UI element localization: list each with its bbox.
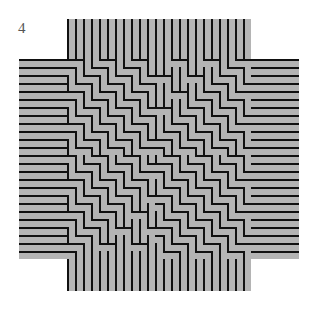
weave-cells	[19, 19, 299, 291]
woven-plaiting-pattern	[0, 0, 317, 309]
